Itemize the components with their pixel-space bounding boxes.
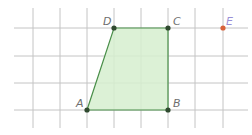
- geometry-diagram: A B C D E: [0, 0, 252, 135]
- point-e[interactable]: [220, 25, 225, 30]
- point-a[interactable]: [84, 107, 89, 112]
- trapezoid-abcd: [87, 28, 168, 110]
- label-c: C: [173, 15, 181, 28]
- label-b: B: [173, 97, 181, 110]
- label-d: D: [103, 15, 111, 28]
- point-c[interactable]: [165, 25, 170, 30]
- label-a: A: [75, 97, 84, 110]
- label-e: E: [226, 15, 233, 28]
- point-b[interactable]: [165, 107, 170, 112]
- point-d[interactable]: [111, 25, 116, 30]
